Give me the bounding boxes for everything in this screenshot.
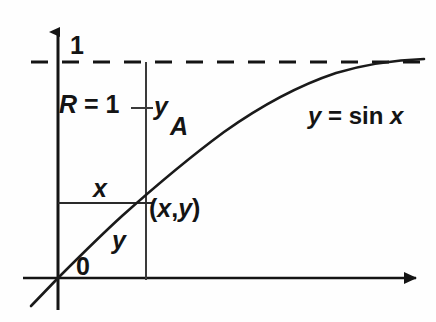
point-coordinate-label: (x,y) <box>149 196 200 221</box>
origin-label: 0 <box>76 254 90 279</box>
curve-equation-label: y = sin x <box>308 104 403 128</box>
region-label: A <box>170 114 188 139</box>
sine-curve-figure: 1 R = 1 y A y = sin x x (x,y) y 0 <box>0 0 436 322</box>
figure-canvas <box>0 0 436 322</box>
point-x: x <box>157 194 171 222</box>
ordinate-segment-label: y <box>112 228 126 253</box>
radius-label: R = 1 <box>59 92 119 117</box>
paren-close: ) <box>192 194 200 222</box>
equation-operator: = sin <box>321 102 390 129</box>
equation-lhs: y <box>308 102 321 129</box>
radius-value: = 1 <box>77 90 119 118</box>
ordinate-tick-label: y <box>154 94 168 119</box>
abscissa-segment-label: x <box>93 176 107 201</box>
point-y: y <box>178 194 192 222</box>
unit-value-label: 1 <box>70 33 84 58</box>
radius-symbol: R <box>59 90 77 118</box>
equation-rhs: x <box>390 102 403 129</box>
